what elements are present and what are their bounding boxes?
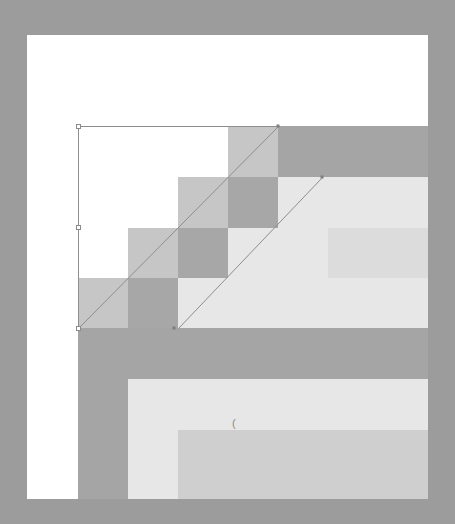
resize-handle[interactable] bbox=[76, 326, 81, 331]
diagonal-guide-line[interactable] bbox=[79, 127, 279, 329]
anchor-points bbox=[173, 125, 324, 330]
resize-handle[interactable] bbox=[76, 225, 81, 230]
resize-handle[interactable] bbox=[76, 124, 81, 129]
text-cursor-icon: ( bbox=[232, 418, 236, 429]
anchor-point[interactable] bbox=[277, 125, 280, 128]
diagonal-guide-line[interactable] bbox=[179, 178, 323, 329]
anchor-point[interactable] bbox=[321, 176, 324, 179]
selection-overlay bbox=[0, 0, 455, 524]
anchor-point[interactable] bbox=[173, 327, 176, 330]
